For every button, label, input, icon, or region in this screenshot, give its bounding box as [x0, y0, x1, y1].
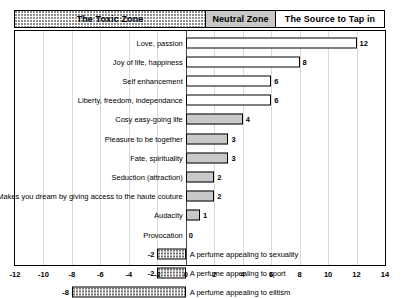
bar-row: Cosy easy-going life4	[15, 110, 385, 129]
axis-tick-label: -8	[69, 270, 76, 279]
axis-tick-label: 12	[352, 270, 360, 279]
axis-tick-label: 0	[184, 270, 188, 279]
bar-chart: The Toxic Zone Neutral Zone The Source t…	[0, 0, 406, 298]
zone-header-neutral: Neutral Zone	[205, 10, 276, 28]
category-label: Makes you dream by giving access to the …	[0, 192, 186, 201]
axis-tick-label: -6	[97, 270, 104, 279]
bar	[186, 95, 271, 106]
category-label: Fate, spirituality	[130, 153, 186, 162]
axis-tick-label: -10	[38, 270, 49, 279]
category-label: Liberty, freedom, independance	[78, 96, 186, 105]
category-label: Pleasure to be together	[105, 134, 186, 143]
bar-row: Love, passion12	[15, 33, 385, 52]
category-label: Audacity	[154, 211, 186, 220]
bar	[186, 152, 229, 163]
category-label: Provocation	[143, 230, 186, 239]
zone-header-toxic: The Toxic Zone	[14, 10, 206, 28]
bar-row: Makes you dream by giving access to the …	[15, 187, 385, 206]
bar	[186, 171, 214, 182]
axis-tick-label: 8	[298, 270, 302, 279]
bar-row: Seduction (attraction)2	[15, 167, 385, 186]
bar-row: Audacity1	[15, 206, 385, 225]
category-label: Love, passion	[136, 38, 185, 47]
category-label: Joy of life, happiness	[113, 57, 186, 66]
bar-value-label: 6	[271, 96, 278, 105]
bar-row: Joy of life, happiness8	[15, 52, 385, 71]
bar	[72, 287, 186, 298]
bar-row: Pleasure to be together3	[15, 129, 385, 148]
bar-row: Self enhancement6	[15, 71, 385, 90]
bar	[186, 133, 229, 144]
zone-label-source: The Source to Tap in	[282, 14, 378, 24]
bar-value-label: 3	[228, 153, 235, 162]
bar	[186, 114, 243, 125]
bar-row: Liberty, freedom, independance6	[15, 91, 385, 110]
bar-value-label: 12	[357, 38, 368, 47]
bar-value-label: 2	[214, 192, 221, 201]
bar	[186, 37, 357, 48]
bar-value-label: 0	[186, 230, 193, 239]
axis-tick-label: 6	[269, 270, 273, 279]
axis-tick-label: -4	[126, 270, 133, 279]
zone-header-band: The Toxic Zone Neutral Zone The Source t…	[14, 10, 386, 28]
category-label: Self enhancement	[122, 76, 185, 85]
category-label: Seduction (attraction)	[111, 172, 185, 181]
category-label: Cosy easy-going life	[115, 115, 186, 124]
axis-tick-label: 14	[381, 270, 389, 279]
bar-row: Fate, spirituality3	[15, 148, 385, 167]
bar	[186, 75, 271, 86]
bar-row: -2A perfume appealing to sexuality	[15, 244, 385, 263]
bar	[186, 210, 200, 221]
zone-label-neutral: Neutral Zone	[209, 14, 271, 24]
axis-tick-label: 10	[324, 270, 332, 279]
axis-tick-label: -12	[10, 270, 21, 279]
zone-header-source: The Source to Tap in	[275, 10, 385, 28]
bar-value-label: -2	[148, 249, 158, 258]
bar-value-label: -8	[62, 288, 72, 297]
bar-row: Provocation0	[15, 225, 385, 244]
axis-tick-label: 2	[212, 270, 216, 279]
bar-value-label: 4	[243, 115, 250, 124]
negative-bar-side-label: A perfume appealing to sexuality	[186, 249, 298, 258]
axis-tick-label: 4	[241, 270, 245, 279]
bar-value-label: 6	[271, 76, 278, 85]
bar	[186, 191, 214, 202]
bar-value-label: 1	[200, 211, 207, 220]
zone-label-toxic: The Toxic Zone	[74, 14, 147, 24]
plot-area: Love, passion12Joy of life, happiness8Se…	[14, 30, 386, 266]
bar	[157, 248, 185, 259]
bar-value-label: 3	[228, 134, 235, 143]
bar-value-label: 8	[300, 57, 307, 66]
axis-tick-label: -2	[154, 270, 161, 279]
x-axis: -12-10-8-6-4-202468101214	[14, 266, 386, 286]
bar-value-label: 2	[214, 172, 221, 181]
bar	[186, 56, 300, 67]
negative-bar-side-label: A perfume appealing to elitism	[186, 288, 290, 297]
